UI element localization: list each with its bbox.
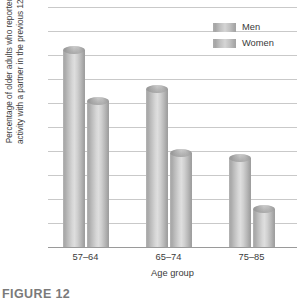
y-axis-title: Percentage of older adults who reported … bbox=[0, 0, 32, 172]
legend-label: Women bbox=[242, 38, 274, 48]
bar-men-75-85 bbox=[229, 158, 251, 247]
bar-cap-shading bbox=[170, 149, 192, 157]
gridline bbox=[48, 247, 297, 248]
y-axis-title-line-2: activity with a partner in the previous … bbox=[15, 0, 26, 144]
legend-swatch-icon bbox=[213, 23, 236, 32]
bar-cap-shading bbox=[253, 205, 275, 213]
legend-swatch-icon bbox=[213, 39, 236, 48]
bar-women-75-85 bbox=[253, 209, 275, 247]
y-axis-title-line-1: Percentage of older adults who reported … bbox=[4, 0, 15, 143]
bar-cap-shading bbox=[229, 154, 251, 162]
bar-women-65-74 bbox=[170, 153, 192, 247]
legend: MenWomen bbox=[213, 21, 295, 51]
bar-women-57-64 bbox=[87, 101, 109, 247]
x-axis-tick-label: 65–74 bbox=[129, 252, 209, 263]
x-axis-title: Age group bbox=[48, 268, 297, 279]
bar-cap-shading bbox=[146, 85, 168, 93]
x-axis-tick-label: 57–64 bbox=[46, 252, 126, 263]
legend-item-women[interactable]: Women bbox=[213, 37, 274, 49]
bar-men-57-64 bbox=[63, 50, 85, 247]
bar-men-65-74 bbox=[146, 89, 168, 247]
figure-caption: FIGURE 12 bbox=[2, 288, 70, 298]
x-axis-tick-label: 75–85 bbox=[212, 252, 292, 263]
legend-label: Men bbox=[242, 22, 260, 32]
legend-item-men[interactable]: Men bbox=[213, 21, 260, 33]
bar-cap-shading bbox=[63, 46, 85, 54]
x-axis-tick-labels: 57–6465–7475–85 bbox=[48, 252, 297, 266]
bar-group bbox=[131, 7, 214, 247]
figure-chart: Percentage of older adults who reported … bbox=[0, 0, 303, 298]
bar-group bbox=[48, 7, 131, 247]
bar-cap-shading bbox=[87, 97, 109, 105]
